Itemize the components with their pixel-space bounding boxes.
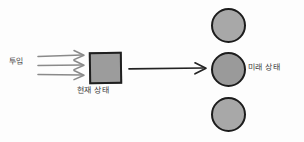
input-arrow-group (38, 51, 84, 80)
future-state-node-bottom (211, 97, 246, 132)
transition-arrow (129, 63, 206, 74)
input-arrow-2 (38, 61, 84, 70)
input-arrow-1 (38, 51, 84, 60)
future-state-node-middle (211, 52, 246, 87)
input-label: 투입 (9, 58, 23, 66)
current-state-box (89, 52, 122, 84)
future-state-node-top (211, 8, 246, 43)
input-arrow-3 (38, 71, 84, 80)
diagram-canvas: 투입 현재 상태 미래 상태 (0, 0, 304, 142)
future-state-label: 미래 상태 (248, 64, 280, 72)
current-state-label: 현재 상태 (77, 87, 109, 95)
